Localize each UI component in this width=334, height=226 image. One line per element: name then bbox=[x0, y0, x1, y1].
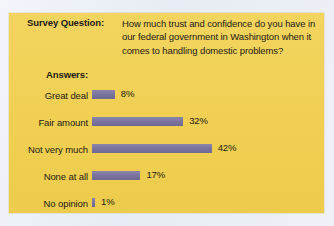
chart-row-label: No opinion bbox=[44, 198, 88, 209]
chart-bar-value: 8% bbox=[121, 88, 135, 99]
survey-question-text: How much trust and confidence do you hav… bbox=[122, 17, 318, 57]
chart-bar-value: 1% bbox=[101, 196, 115, 207]
chart-row: Great deal8% bbox=[9, 86, 324, 113]
chart-row-label: None at all bbox=[44, 171, 88, 182]
chart-row: None at all17% bbox=[9, 167, 324, 194]
chart-bar bbox=[92, 198, 95, 207]
chart-bar-value: 42% bbox=[218, 142, 237, 153]
survey-panel: Survey Question: How much trust and conf… bbox=[9, 13, 324, 213]
chart-row: Fair amount32% bbox=[9, 113, 324, 140]
chart-row-label: Not very much bbox=[28, 144, 88, 155]
chart-bar bbox=[92, 171, 140, 180]
bar-chart: Great deal8%Fair amount32%Not very much4… bbox=[9, 86, 324, 221]
chart-bar bbox=[92, 117, 183, 126]
chart-bar-track: 32% bbox=[92, 117, 320, 128]
chart-bar-track: 8% bbox=[92, 90, 320, 101]
chart-bar-track: 42% bbox=[92, 144, 320, 155]
chart-row: Not very much42% bbox=[9, 140, 324, 167]
chart-bar bbox=[92, 144, 212, 153]
chart-bar-value: 17% bbox=[146, 169, 165, 180]
survey-chart-figure: Survey Question: How much trust and conf… bbox=[0, 0, 334, 226]
chart-bar-track: 1% bbox=[92, 198, 320, 209]
chart-row: No opinion1% bbox=[9, 194, 324, 221]
survey-question-label: Survey Question: bbox=[27, 17, 104, 28]
chart-bar-track: 17% bbox=[92, 171, 320, 182]
chart-row-label: Great deal bbox=[45, 90, 88, 101]
chart-row-label: Fair amount bbox=[38, 117, 88, 128]
chart-bar-value: 32% bbox=[189, 115, 208, 126]
answers-label: Answers: bbox=[46, 69, 88, 80]
chart-bar bbox=[92, 90, 115, 99]
